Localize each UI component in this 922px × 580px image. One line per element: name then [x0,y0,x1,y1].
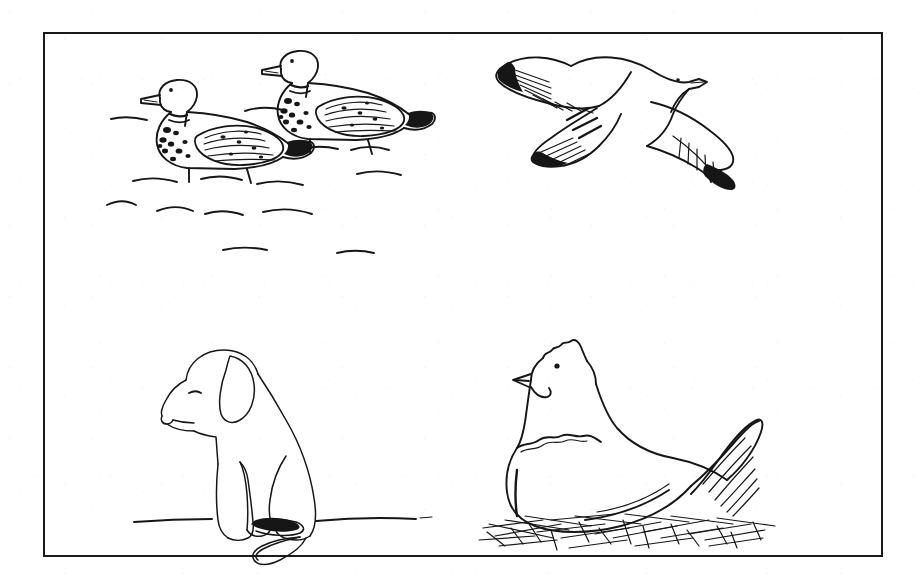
water-ripples [107,108,401,253]
panel-hen-on-nest [465,324,795,554]
gull-icon [496,57,735,190]
illustration-plate [0,0,922,580]
dog-icon [161,350,315,565]
panel-seagull-in-flight [475,42,775,242]
duck-front [262,51,435,154]
panel-two-ducks-swimming [105,54,445,284]
hen-icon [506,340,762,532]
plate-frame-border [43,32,883,557]
panel-sitting-dog [130,324,440,554]
